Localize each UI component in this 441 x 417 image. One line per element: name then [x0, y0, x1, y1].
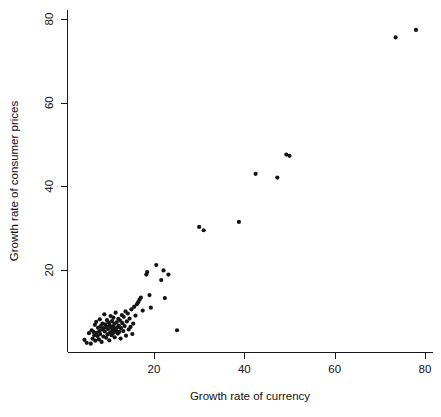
- data-point: [111, 316, 115, 320]
- data-point: [124, 334, 128, 338]
- data-point: [154, 263, 158, 267]
- data-point: [197, 225, 201, 229]
- data-point: [237, 220, 241, 224]
- data-point: [85, 341, 89, 345]
- data-point: [113, 335, 117, 339]
- data-points-group: [82, 28, 418, 346]
- data-point: [122, 315, 126, 319]
- data-point: [100, 340, 104, 344]
- data-point: [275, 175, 279, 179]
- data-point: [123, 324, 127, 328]
- x-axis-ticks: 20406080: [148, 353, 432, 376]
- data-point: [254, 172, 258, 176]
- data-point: [159, 278, 163, 282]
- data-point: [98, 317, 102, 321]
- data-point: [118, 337, 122, 341]
- x-tick-label: 20: [148, 363, 161, 375]
- data-point: [121, 329, 125, 333]
- y-tick-label: 80: [43, 13, 55, 26]
- data-point: [175, 328, 179, 332]
- x-tick-label: 40: [238, 363, 251, 375]
- data-point: [202, 228, 206, 232]
- data-point: [414, 28, 418, 32]
- y-tick-label: 20: [43, 264, 55, 277]
- data-point: [102, 312, 106, 316]
- scatter-plot-figure: 20406080 20406080 Growth rate of currenc…: [0, 0, 441, 417]
- data-point: [287, 154, 291, 158]
- data-point: [130, 332, 134, 336]
- y-axis-title: Growth rate of consumer prices: [8, 101, 20, 262]
- data-point: [131, 321, 135, 325]
- y-tick-label: 60: [43, 96, 55, 109]
- x-tick-label: 60: [328, 363, 341, 375]
- data-point: [128, 316, 132, 320]
- data-point: [394, 35, 398, 39]
- data-point: [89, 342, 93, 346]
- data-point: [163, 296, 167, 300]
- data-point: [126, 311, 130, 315]
- data-point: [161, 268, 165, 272]
- data-point: [93, 339, 97, 343]
- data-point: [147, 293, 151, 297]
- data-point: [139, 296, 143, 300]
- axes-group: [68, 10, 434, 353]
- x-axis-title: Growth rate of currency: [190, 390, 310, 402]
- data-point: [117, 330, 121, 334]
- data-point: [94, 320, 98, 324]
- data-point: [133, 314, 137, 318]
- y-tick-label: 40: [43, 180, 55, 193]
- data-point: [149, 306, 153, 310]
- data-point: [128, 325, 132, 329]
- data-point: [114, 311, 118, 315]
- x-tick-label: 80: [419, 363, 432, 375]
- data-point: [141, 308, 145, 312]
- plot-canvas: 20406080 20406080 Growth rate of currenc…: [0, 0, 441, 417]
- data-point: [145, 270, 149, 274]
- data-point: [107, 338, 111, 342]
- data-point: [166, 273, 170, 277]
- y-axis-ticks: 20406080: [43, 13, 67, 277]
